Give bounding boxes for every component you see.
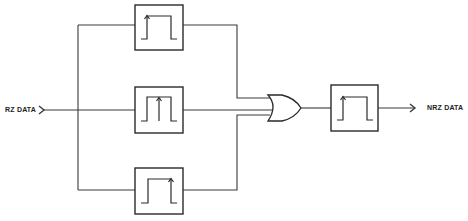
pulse-stretcher-bottom bbox=[135, 168, 183, 214]
diagram-canvas bbox=[0, 0, 468, 221]
or-gate-icon bbox=[268, 95, 301, 121]
wire-bottom-to-or bbox=[183, 115, 270, 190]
input-chevron-icon bbox=[39, 106, 44, 114]
wire-top-to-or bbox=[183, 25, 270, 98]
output-block bbox=[331, 85, 378, 131]
center-pulse-icon bbox=[141, 97, 177, 121]
pulse-stretcher-top bbox=[135, 5, 183, 50]
input-label: RZ DATA bbox=[5, 106, 36, 113]
output-label: NRZ DATA bbox=[427, 104, 463, 111]
pulse-stretcher-middle bbox=[135, 87, 183, 133]
